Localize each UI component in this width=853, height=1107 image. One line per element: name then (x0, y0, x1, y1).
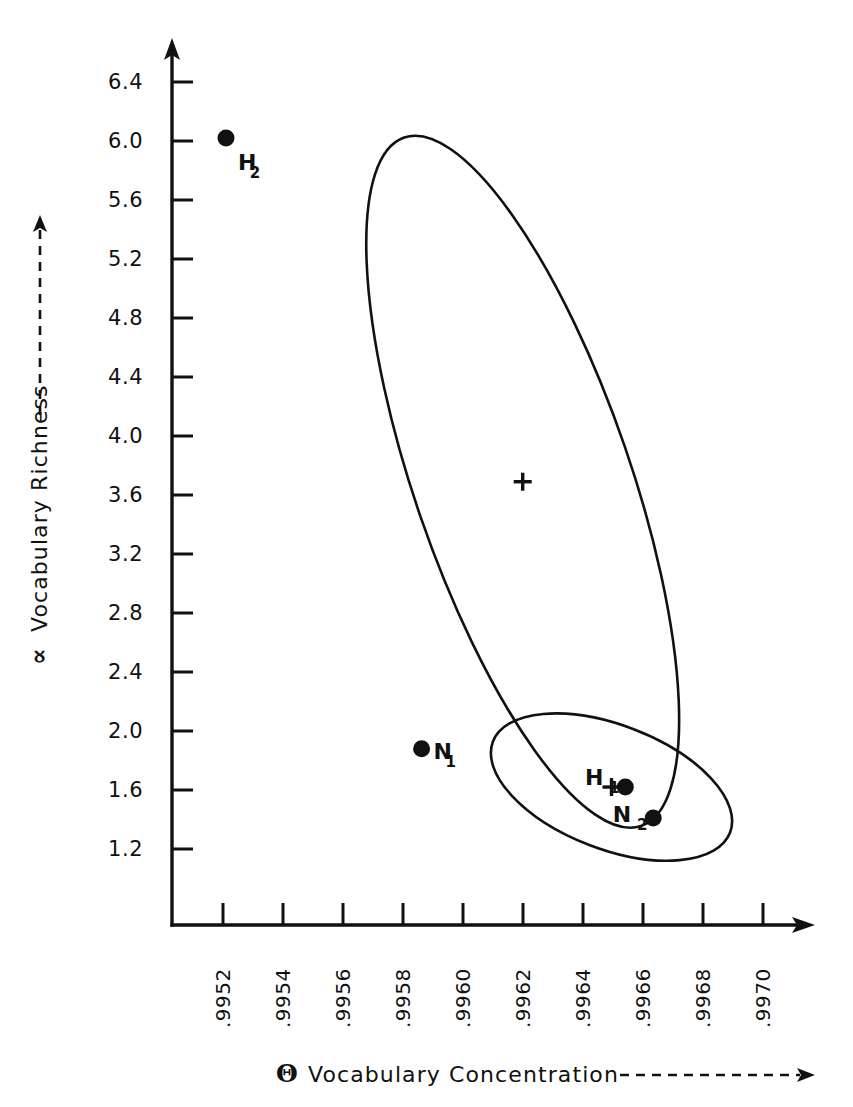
x-tick-label: .9968 (691, 968, 715, 1028)
data-point-label-subscript: 1 (609, 779, 619, 797)
y-tick-label: 5.6 (108, 188, 143, 212)
x-tick-label: .9962 (511, 968, 535, 1028)
y-tick-label: 4.0 (108, 424, 143, 448)
y-tick-label: 1.2 (108, 837, 143, 861)
x-axis-tick-labels: .9952.9954.9956.9958.9960.9962.9964.9966… (211, 968, 775, 1028)
y-tick-label: 6.4 (108, 70, 143, 94)
data-points: H2N1H1N2 (218, 130, 662, 834)
data-point-n2: N2 (613, 802, 662, 834)
x-tick-label: .9966 (631, 968, 655, 1028)
y-axis-symbol: ∝ (24, 648, 53, 665)
y-axis-title-arrowhead (33, 215, 47, 232)
data-point-label-subscript: 2 (250, 164, 260, 182)
x-tick-label: .9970 (751, 968, 775, 1028)
data-point-h1: H1 (585, 765, 634, 797)
data-point-label: H (585, 765, 603, 790)
y-tick-label: 1.6 (108, 778, 143, 802)
y-tick-label: 2.0 (108, 719, 143, 743)
confidence-ellipses (302, 102, 752, 890)
data-point-label-subscript: 1 (445, 753, 455, 771)
x-tick-label: .9958 (391, 968, 415, 1028)
x-tick-label: .9954 (271, 968, 295, 1028)
y-tick-label: 5.2 (108, 247, 143, 271)
y-axis-tick-labels: 6.46.05.65.24.84.44.03.63.22.82.42.01.61… (108, 70, 143, 861)
data-point-label: N (613, 802, 631, 827)
y-axis: 6.46.05.65.24.84.44.03.63.22.82.42.01.61… (108, 38, 193, 925)
group-centroids (514, 473, 621, 796)
x-axis-symbol: Θ (276, 1059, 298, 1088)
x-axis-ticks (223, 903, 763, 925)
x-axis: .9952.9954.9956.9958.9960.9962.9964.9966… (172, 903, 815, 1028)
y-axis-ticks (172, 82, 193, 849)
y-tick-label: 3.6 (108, 483, 143, 507)
data-point-marker (413, 740, 430, 757)
y-axis-title-group: ∝ Vocabulary Richness (24, 215, 53, 665)
x-axis-title-group: Θ Vocabulary Concentration (276, 1059, 815, 1088)
scatter-plot: 6.46.05.65.24.84.44.03.63.22.82.42.01.61… (0, 0, 853, 1107)
y-tick-label: 6.0 (108, 129, 143, 153)
x-tick-label: .9964 (571, 968, 595, 1028)
x-axis-title: Vocabulary Concentration (308, 1062, 619, 1087)
y-tick-label: 2.4 (108, 660, 143, 684)
y-tick-label: 4.8 (108, 306, 143, 330)
y-tick-label: 3.2 (108, 542, 143, 566)
y-axis-title: Vocabulary Richness (27, 384, 52, 632)
data-point-marker (218, 130, 235, 147)
data-point-n1: N1 (413, 739, 456, 771)
x-tick-label: .9956 (331, 968, 355, 1028)
upper-group-centroid (514, 473, 532, 491)
x-tick-label: .9960 (451, 968, 475, 1028)
chart-canvas: 6.46.05.65.24.84.44.03.63.22.82.42.01.61… (0, 0, 853, 1107)
data-point-h2: H2 (218, 130, 261, 183)
y-tick-label: 4.4 (108, 365, 143, 389)
data-point-label-subscript: 2 (637, 816, 647, 834)
y-tick-label: 2.8 (108, 601, 143, 625)
x-tick-label: .9952 (211, 968, 235, 1028)
